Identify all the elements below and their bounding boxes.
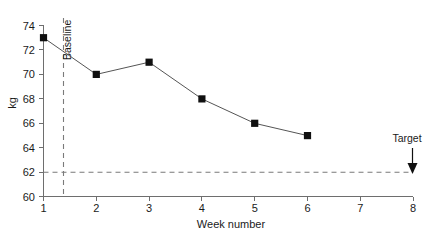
- chart-svg: 74 72 70 68 66 64 62 60 1 2 3 4 5: [0, 0, 437, 235]
- x-tick-label: 4: [199, 202, 205, 214]
- data-point-marker: [93, 71, 100, 78]
- x-tick-label: 6: [304, 202, 310, 214]
- y-tick-label: 64: [23, 142, 35, 154]
- x-axis-title: Week number: [197, 218, 266, 230]
- x-tick-label: 2: [93, 202, 99, 214]
- data-point-marker: [251, 120, 258, 127]
- x-tick-label: 3: [146, 202, 152, 214]
- x-tick-label: 7: [357, 202, 363, 214]
- y-tick-label: 70: [23, 68, 35, 80]
- y-axis-title: kg: [6, 97, 18, 109]
- data-point-marker: [146, 59, 153, 66]
- data-point-marker: [40, 34, 47, 41]
- data-point-marker: [198, 95, 205, 102]
- y-tick-label: 74: [23, 20, 35, 32]
- y-tick-label: 60: [23, 191, 35, 203]
- data-point-marker: [304, 132, 311, 139]
- y-tick-label: 66: [23, 117, 35, 129]
- x-tick-label: 1: [40, 202, 46, 214]
- y-tick-label: 62: [23, 166, 35, 178]
- y-tick-label: 68: [23, 93, 35, 105]
- weight-loss-line-chart: 74 72 70 68 66 64 62 60 1 2 3 4 5: [0, 0, 437, 235]
- target-annotation-label: Target: [392, 132, 421, 144]
- x-tick-label: 8: [410, 202, 416, 214]
- y-tick-label: 72: [23, 44, 35, 56]
- x-tick-label: 5: [252, 202, 258, 214]
